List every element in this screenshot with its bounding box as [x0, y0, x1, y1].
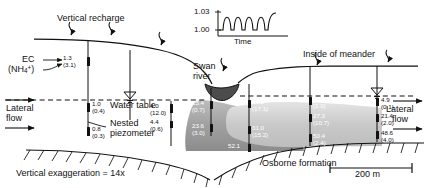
nh4-value: (12.0) — [150, 109, 166, 116]
value-far-shallow: 4.9 (0.1) — [381, 97, 394, 111]
nh4-value: (3.1) — [63, 61, 76, 68]
piezometer-screen-left-mid — [87, 103, 90, 112]
nh4-value: (0.4) — [92, 107, 105, 114]
piezometer-screen-river-upper — [210, 101, 213, 109]
value-bank-lower: 31.0 (15.2) — [252, 125, 268, 139]
value-east-mid: 27.3 (10.7) — [313, 113, 329, 127]
label-water-table: Water table — [110, 101, 156, 110]
nh4-value: (0.6) — [150, 125, 163, 132]
label-inside-of-meander: Inside of meander — [303, 50, 375, 59]
inset-ytick-low: 1.00 — [194, 26, 210, 34]
piezometer-screen-bank-lower — [248, 126, 251, 134]
label-swan-river-line2: river — [193, 72, 211, 81]
nh4-open: (NH — [8, 64, 24, 74]
nh4-value: (1.0) — [313, 102, 326, 109]
nh4-close: ) — [31, 64, 34, 74]
piezometer-screen-far-shallow — [376, 98, 379, 106]
inset-ylabel: Density — [167, 0, 175, 6]
label-lateral-flow-right-line2: flow — [392, 115, 408, 124]
swan-river-channel — [205, 84, 239, 101]
inset-ytick-high: 1.03 — [194, 8, 210, 16]
value-mid-deep: 4.4 (0.6) — [150, 119, 163, 133]
value-mid-shallow: 4.0 (12.0) — [150, 103, 166, 117]
inset-xlabel: Time — [234, 38, 251, 46]
nh4-value: (3.0) — [192, 129, 205, 136]
piezometer-screen-bank-base — [248, 144, 251, 152]
label-osborne-formation: Osborne formation — [262, 159, 337, 168]
inset-density-chart — [215, 10, 288, 36]
value-far-deep: 48.6 (4.0) — [381, 130, 394, 144]
piezometer-screen-east-mid — [309, 114, 312, 122]
label-nested-piezometer-line2: piezometer — [110, 129, 155, 138]
piezometer-screen-left-shallow — [87, 57, 90, 66]
nh4-value: (0.1) — [381, 103, 394, 110]
piezometer-screen-left-deep — [87, 127, 90, 136]
label-nh4: (NH4+) — [8, 65, 34, 75]
value-far-mid: 21.4 (2.0) — [381, 113, 394, 127]
nh4-value: (0.7) — [192, 106, 205, 113]
nh4-value: (2.0) — [381, 119, 394, 126]
ec-leader-arrows — [43, 60, 62, 70]
piezometer-screen-mid-shallow — [170, 104, 173, 113]
piezometer-screen-far-mid — [376, 114, 379, 122]
figure-canvas: Vertical recharge Inside of meander Swan… — [0, 0, 428, 188]
nh4-value: (4.0) — [381, 136, 394, 143]
piezometer-screen-east-deep — [309, 134, 312, 142]
value-left-shallow: 1.3 (3.1) — [63, 55, 76, 69]
value-left-deep: 0.8 (0.3) — [92, 126, 105, 140]
piezometer-screen-bank-upper — [248, 100, 251, 108]
nh4-value: (17.1) — [252, 105, 268, 112]
ground-surface-line — [34, 39, 418, 84]
recharge-arrows — [69, 22, 389, 71]
nh4-value: (2.4) — [313, 139, 326, 146]
label-lateral-flow-left-line2: flow — [6, 114, 22, 123]
cross-section-graphics — [0, 0, 428, 188]
nh4-value: (17.6) — [228, 149, 244, 156]
label-scale-bar-value: 200 m — [355, 170, 380, 179]
value-river-upper: 25.4 (0.7) — [192, 100, 205, 114]
label-vertical-recharge: Vertical recharge — [57, 14, 125, 23]
nh4-value: (15.2) — [252, 131, 268, 138]
piezometer-screen-river-lower — [210, 124, 213, 132]
value-bank-upper: 30.6 (17.1) — [252, 99, 268, 113]
value-east-deep: 50.4 (2.4) — [313, 133, 326, 147]
label-vertical-exaggeration: Vertical exaggeration = 14x — [16, 169, 125, 178]
piezometer-screen-east-shallow — [309, 97, 312, 105]
value-river-lower: 23.6 (3.0) — [192, 123, 205, 137]
piezometer-screen-mid-deep — [170, 121, 173, 128]
value-left-mid: 1.0 (0.4) — [92, 101, 105, 115]
piezometer-screen-far-deep — [376, 131, 379, 139]
nh4-value: (0.3) — [92, 132, 105, 139]
nh4-value: (10.7) — [313, 119, 329, 126]
value-east-shallow: 8.7 (1.0) — [313, 96, 326, 110]
value-bank-base: 52.1 (17.6) — [228, 143, 244, 157]
